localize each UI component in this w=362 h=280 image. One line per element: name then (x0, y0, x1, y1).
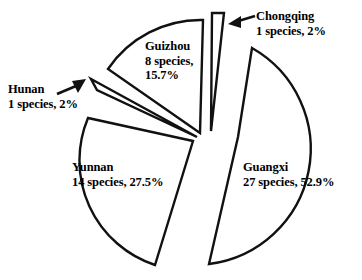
slice-label-hunan-count: 1 species, 2% (8, 97, 78, 112)
slice-label-guizhou-count: 8 species, (145, 54, 193, 69)
chongqing-leader-arrow (228, 16, 255, 28)
slice-label-hunan-name: Hunan (8, 82, 78, 97)
pie-slice-yunnan[interactable] (79, 118, 193, 265)
slice-label-yunnan-name: Yunnan (72, 160, 163, 175)
pie-slice-guangxi[interactable] (209, 48, 311, 264)
slice-label-guangxi-count: 27 species, 52.9% (243, 175, 334, 190)
pie-slice-chongqing[interactable] (211, 13, 224, 131)
slice-label-guizhou-name: Guizhou (145, 39, 193, 54)
slice-label-chongqing-name: Chongqing (256, 9, 326, 24)
slice-label-yunnan-count: 14 species, 27.5% (72, 175, 163, 190)
slice-label-guizhou-percent: 15.7% (145, 68, 193, 83)
slice-label-guizhou: Guizhou 8 species, 15.7% (145, 39, 193, 83)
slice-label-hunan: Hunan 1 species, 2% (8, 82, 78, 111)
slice-label-chongqing: Chongqing 1 species, 2% (256, 9, 326, 38)
pie-chart-figure: Guizhou 8 species, 15.7% Chongqing 1 spe… (0, 0, 362, 280)
slice-label-chongqing-count: 1 species, 2% (256, 24, 326, 39)
slice-label-guangxi-name: Guangxi (243, 160, 334, 175)
slice-label-guangxi: Guangxi 27 species, 52.9% (243, 160, 334, 189)
slice-label-yunnan: Yunnan 14 species, 27.5% (72, 160, 163, 189)
